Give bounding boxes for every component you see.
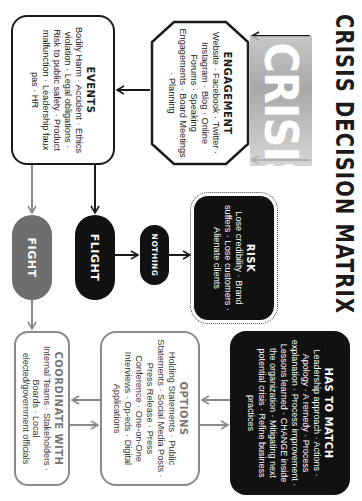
nothing-node: NOTHING <box>140 225 169 285</box>
risk-node: RISK Lose credibility · Brand suffers · … <box>194 196 274 320</box>
crisis-graphic: CRISIS <box>250 36 312 166</box>
coordinate-with-heading: COORDINATE WITH <box>53 352 64 466</box>
events-heading: EVENTS <box>86 67 97 114</box>
page-title: CRISIS DECISION MATRIX <box>328 14 360 326</box>
options-body: Holding Statements · Public Statements ·… <box>111 333 177 484</box>
events-body: Bodily Harm · Accident · Ethics violatio… <box>30 17 85 163</box>
has-to-match-body: Leadership approach · Actions · Apology … <box>246 331 323 495</box>
engagement-heading: ENGAGEMENT <box>223 51 234 134</box>
has-to-match-heading: HAS TO MATCH <box>324 367 335 458</box>
engagement-node: ENGAGEMENT Website · Facebook · Twitter … <box>150 20 250 166</box>
flight-node: FLIGHT <box>75 215 115 300</box>
risk-heading: RISK <box>246 244 257 272</box>
fight-node: FIGHT <box>12 215 52 300</box>
options-node: OPTIONS Holding Statements · Public Stat… <box>100 331 200 486</box>
crisis-decision-matrix-diagram: CRISIS DECISION MATRIX CRISIS ENGAGEMENT… <box>0 0 362 501</box>
options-heading: OPTIONS <box>178 382 189 436</box>
crisis-graphic-text: CRISIS <box>250 43 312 160</box>
coordinate-with-node: COORDINATE WITH Internal Teams · Stakeho… <box>14 331 70 486</box>
engagement-body: Website · Facebook · Twitter · Instagram… <box>167 20 222 166</box>
events-node: EVENTS Bodily Harm · Accident · Ethics v… <box>11 15 115 165</box>
has-to-match-node: HAS TO MATCH Leadership approach · Actio… <box>230 331 350 495</box>
coordinate-with-body: Internal Teams · Stakeholders · Boards ·… <box>20 333 52 484</box>
risk-body: Lose credibility · Brand suffers · Lose … <box>212 196 245 320</box>
